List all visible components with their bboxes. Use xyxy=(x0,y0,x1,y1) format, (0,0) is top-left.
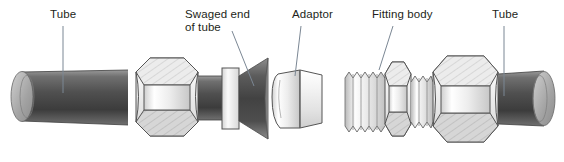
label-tube-right: Tube xyxy=(492,8,518,21)
hex-nut-small xyxy=(385,62,411,136)
label-swaged-end-line1: Swaged end xyxy=(185,8,250,21)
collar-ring xyxy=(222,68,239,129)
label-adaptor: Adaptor xyxy=(292,8,333,21)
threaded-shank xyxy=(345,72,387,132)
label-swaged-end-line2: of tube xyxy=(185,21,221,34)
tube-right-end-ellipse xyxy=(533,72,555,126)
threaded-short-section xyxy=(411,76,433,128)
adaptor xyxy=(272,70,322,128)
leader-adaptor xyxy=(295,26,301,76)
tube-left-end-ellipse xyxy=(11,72,34,122)
technical-diagram-swaged-tube-fitting: Tube Swaged end of tube Adaptor Fitting … xyxy=(0,0,564,162)
tube-left-cylinder xyxy=(22,70,128,125)
label-fitting-body: Fitting body xyxy=(372,8,433,21)
diagram-canvas xyxy=(0,0,564,162)
swaged-flare-cone xyxy=(239,58,268,139)
label-tube-left: Tube xyxy=(50,8,76,21)
hex-nut-left xyxy=(136,58,198,136)
hex-nut-right xyxy=(433,56,498,142)
